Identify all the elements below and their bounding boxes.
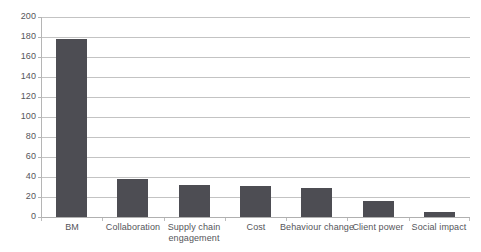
y-axis-tick-label: 80 [0,132,36,141]
bar [301,188,332,217]
x-axis-tick-mark [41,218,42,221]
y-axis-tick-label: 60 [0,152,36,161]
bar [240,186,271,217]
x-axis-category-label-line: Cost [247,222,266,232]
x-axis-tick-mark [225,218,226,221]
x-axis-tick-mark [469,218,470,221]
y-axis-tick-label: 0 [0,212,36,221]
y-axis-tick-label: 180 [0,32,36,41]
y-axis-tick-label: 120 [0,92,36,101]
y-axis-tick-label: 100 [0,112,36,121]
y-axis-tick-label: 160 [0,52,36,61]
y-axis-tick-labels: 020406080100120140160180200 [0,0,36,252]
bar [179,185,210,217]
bar-series [41,17,470,217]
bar [117,179,148,217]
x-axis-category-label-line: Social impact [412,222,467,232]
x-axis-tick-mark [347,218,348,221]
x-axis-tick-mark [286,218,287,221]
x-axis-tick-mark [164,218,165,221]
x-axis-tick-mark [102,218,103,221]
bar-chart: 020406080100120140160180200 BMCollaborat… [0,0,481,252]
x-axis-category-label-line: engagement [148,233,240,244]
bar [56,39,87,217]
x-axis-tick-mark [409,218,410,221]
y-axis-tick-label: 40 [0,172,36,181]
bar [424,212,455,217]
y-axis-tick-label: 20 [0,192,36,201]
y-axis-tick-label: 140 [0,72,36,81]
x-axis-category-label-line: BM [65,222,79,232]
y-axis-tick-label: 200 [0,12,36,21]
x-axis-category-labels: BMCollaborationSupply chainengagementCos… [41,222,470,252]
x-axis-category-label: Social impact [393,222,481,233]
bar [363,201,394,217]
